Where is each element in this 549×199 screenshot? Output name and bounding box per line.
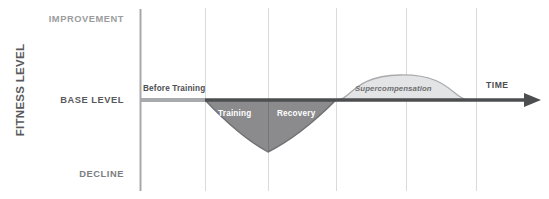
y-axis-title: FITNESS LEVEL (14, 41, 26, 139)
fatigue-area (205, 100, 336, 152)
supercompensation-diagram: FITNESS LEVEL IMPROVEMENT BASE LEVEL DEC… (0, 0, 549, 199)
phase-label-before-training: Before Training (143, 84, 205, 93)
y-tick-label-base-level: BASE LEVEL (0, 95, 124, 105)
y-tick-label-decline: DECLINE (0, 169, 124, 179)
y-tick-label-improvement: IMPROVEMENT (0, 14, 124, 24)
phase-label-training: Training (218, 109, 251, 118)
phase-label-supercompensation: Supercompensation (355, 84, 432, 93)
time-axis-arrowhead (524, 93, 541, 107)
phase-label-recovery: Recovery (277, 109, 315, 118)
x-axis-title: TIME (486, 80, 509, 90)
